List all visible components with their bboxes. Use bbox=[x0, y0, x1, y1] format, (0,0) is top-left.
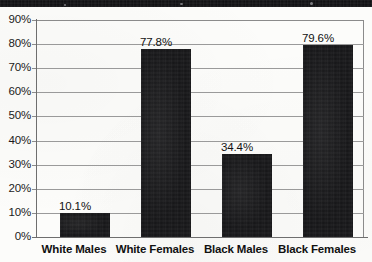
ytick-label-70: 70% bbox=[0, 62, 31, 73]
ytick-mark-20 bbox=[32, 189, 36, 190]
scan-edge-band bbox=[0, 0, 372, 7]
ytick-mark-40 bbox=[32, 141, 36, 142]
scan-speck bbox=[64, 4, 66, 6]
ytick-mark-80 bbox=[32, 44, 36, 45]
plot-border-top bbox=[36, 20, 364, 21]
ytick-label-90: 90% bbox=[0, 14, 31, 25]
ytick-mark-60 bbox=[32, 92, 36, 93]
bar-chart: 90% 80% 70% 60% 50% 40% 30% 20% 10% 0% 1… bbox=[0, 0, 372, 262]
bar-black-males bbox=[222, 154, 272, 237]
bar-value-black-males: 34.4% bbox=[212, 141, 262, 153]
ytick-label-0: 0% bbox=[0, 231, 31, 242]
scan-speck bbox=[310, 2, 313, 5]
scan-speck bbox=[180, 3, 183, 5]
bar-value-white-males: 10.1% bbox=[50, 200, 100, 212]
ytick-mark-30 bbox=[32, 165, 36, 166]
ytick-label-30: 30% bbox=[0, 159, 31, 170]
ytick-label-20: 20% bbox=[0, 183, 31, 194]
ytick-label-10: 10% bbox=[0, 207, 31, 218]
bar-white-females bbox=[141, 49, 191, 237]
ytick-mark-50 bbox=[32, 116, 36, 117]
bar-value-black-females: 79.6% bbox=[293, 32, 343, 44]
plot-border-right bbox=[363, 20, 364, 237]
y-axis-line bbox=[36, 19, 37, 238]
ytick-label-40: 40% bbox=[0, 135, 31, 146]
ytick-label-50: 50% bbox=[0, 110, 31, 121]
ytick-label-80: 80% bbox=[0, 38, 31, 49]
ytick-mark-70 bbox=[32, 68, 36, 69]
bar-black-females bbox=[303, 45, 353, 237]
ytick-label-60: 60% bbox=[0, 86, 31, 97]
x-axis-line bbox=[32, 237, 368, 238]
ytick-mark-10 bbox=[32, 213, 36, 214]
bar-value-white-females: 77.8% bbox=[131, 36, 181, 48]
category-label-black-females: Black Females bbox=[268, 243, 366, 255]
ytick-mark-90 bbox=[32, 20, 36, 21]
bar-white-males bbox=[60, 213, 110, 237]
